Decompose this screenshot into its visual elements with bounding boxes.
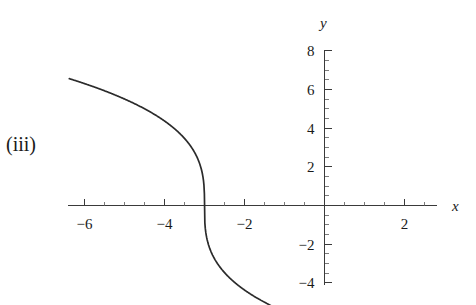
plot-area: −6−4−22 8642−2−4 x y	[0, 0, 476, 305]
x-tick-label: −4	[157, 216, 173, 232]
figure-container: (iii) −6−4−22 8642−2−4 x y	[0, 0, 476, 305]
x-axis-major-ticks	[85, 199, 405, 206]
y-tick-label: 6	[307, 82, 315, 98]
x-tick-label: −2	[237, 216, 253, 232]
x-tick-label: 2	[401, 216, 409, 232]
y-axis-tick-labels: 8642−2−4	[299, 43, 315, 291]
y-tick-label: 2	[307, 159, 315, 175]
y-tick-label: −4	[299, 275, 315, 291]
data-curve-line	[69, 79, 476, 305]
y-tick-label: 4	[307, 121, 315, 137]
x-axis-title: x	[451, 198, 459, 214]
y-tick-label: −2	[299, 237, 315, 253]
y-axis-major-ticks	[325, 51, 332, 283]
x-tick-label: −6	[77, 216, 93, 232]
y-axis-title: y	[318, 15, 327, 31]
x-axis-minor-ticks	[105, 202, 425, 206]
x-axis-tick-labels: −6−4−22	[77, 216, 409, 232]
y-tick-label: 8	[307, 43, 315, 59]
